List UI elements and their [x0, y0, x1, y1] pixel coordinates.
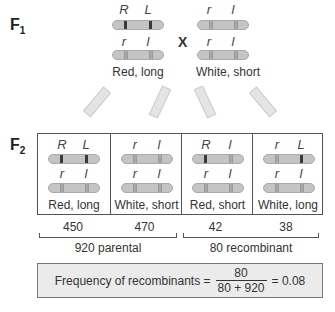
f2-offspring-table: R L r l Red, long r l r l White, short R…: [37, 133, 323, 215]
count: 470: [109, 220, 180, 234]
phenotype-label: Red, long: [98, 65, 178, 79]
arrow-icon: [194, 85, 217, 118]
offspring-cell: R l r l Red, short: [181, 134, 252, 214]
allele: R: [117, 2, 131, 17]
chromosome: [197, 20, 249, 30]
arrow-icon: [83, 87, 111, 118]
parental-total: 920 parental: [39, 241, 177, 255]
arrow-icon: [149, 85, 172, 118]
offspring-cell: r L r l White, long: [252, 134, 322, 214]
offspring-cell: r l r l White, short: [110, 134, 181, 214]
recombinant-total: 80 recombinant: [183, 241, 319, 255]
recombination-frequency-formula: Frequency of recombinants = 80 80 + 920 …: [37, 263, 323, 298]
allele: r: [202, 2, 216, 17]
formula-label: Frequency of recombinants =: [55, 274, 211, 288]
f1-left-parent: R L r l: [112, 2, 164, 72]
chromosome: [112, 20, 164, 30]
allele: l: [226, 34, 240, 49]
phenotype-label: White, short: [188, 65, 268, 79]
parental-brace: [39, 233, 177, 238]
count: 38: [251, 220, 321, 234]
cross-symbol: X: [178, 34, 187, 50]
formula-result: = 0.08: [272, 274, 306, 288]
allele: r: [117, 34, 131, 49]
f1-right-parent: r l r l: [197, 2, 249, 72]
fraction: 80 80 + 920: [216, 266, 267, 295]
allele: L: [141, 2, 155, 17]
count: 42: [180, 220, 251, 234]
f1-label: F1: [10, 16, 25, 36]
f2-label: F2: [10, 136, 25, 156]
arrow-icon: [249, 87, 277, 118]
chromosome: [197, 50, 249, 60]
allele: l: [226, 2, 240, 17]
chromosome: [112, 50, 164, 60]
offspring-cell: R L r l Red, long: [38, 134, 110, 214]
count: 450: [37, 220, 109, 234]
allele: l: [141, 34, 155, 49]
recombinant-brace: [183, 233, 319, 238]
allele: r: [202, 34, 216, 49]
